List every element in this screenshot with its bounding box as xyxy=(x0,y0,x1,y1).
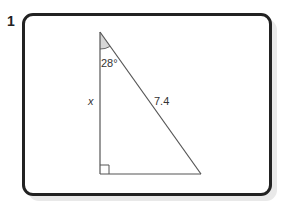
right-angle-marker xyxy=(100,165,109,174)
side-x-label: x xyxy=(88,95,94,107)
side-hypotenuse xyxy=(100,32,201,174)
triangle-figure xyxy=(0,0,288,209)
hypotenuse-label: 7.4 xyxy=(154,95,169,107)
angle-label: 28° xyxy=(101,57,118,69)
